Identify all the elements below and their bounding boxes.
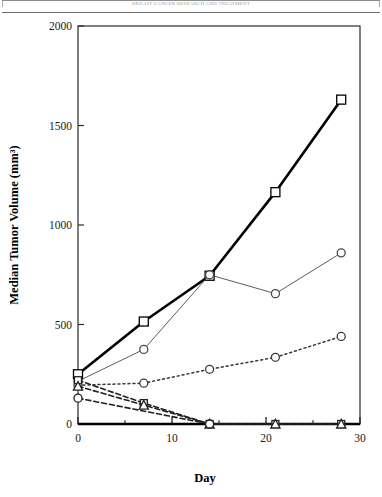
x-axis: 0102030	[75, 417, 366, 444]
y-tick-label: 0	[66, 418, 72, 430]
y-tick-label: 2000	[49, 20, 72, 32]
data-point-circle	[140, 345, 148, 353]
data-point-square	[139, 317, 148, 326]
data-point-circle	[206, 271, 214, 279]
y-axis-title: Median Tumor Volume (mm³)	[7, 145, 21, 304]
data-point-circle	[337, 332, 345, 340]
x-tick-label: 0	[75, 432, 81, 444]
y-axis: 0500100015002000	[49, 20, 84, 430]
data-point-square	[271, 188, 280, 197]
line-chart: 0500100015002000 0102030 Median Tumor Vo…	[0, 13, 382, 497]
y-tick-label: 500	[55, 319, 73, 331]
y-tick-label: 1500	[49, 120, 72, 132]
y-tick-label: 1000	[49, 219, 72, 231]
running-header: BREAST CANCER RESEARCH AND TREATMENT	[0, 0, 382, 13]
x-tick-label: 10	[166, 432, 178, 444]
plot-frame	[78, 26, 360, 424]
data-point-circle	[140, 379, 148, 387]
data-point-circle	[337, 249, 345, 257]
series-line	[78, 100, 341, 375]
running-header-text: BREAST CANCER RESEARCH AND TREATMENT	[0, 0, 382, 8]
data-point-circle	[206, 365, 214, 373]
data-point-square	[337, 95, 346, 104]
x-axis-title: Day	[194, 471, 216, 485]
data-point-circle	[74, 394, 82, 402]
data-point-circle	[271, 353, 279, 361]
x-tick-label: 30	[354, 432, 366, 444]
series-1	[74, 95, 346, 379]
series-line	[78, 380, 341, 424]
series-3	[74, 332, 345, 389]
data-series-layer	[73, 95, 345, 428]
figure-page: BREAST CANCER RESEARCH AND TREATMENT 050…	[0, 0, 382, 497]
plot-border	[78, 26, 360, 424]
chart-container: 0500100015002000 0102030 Median Tumor Vo…	[0, 13, 382, 497]
data-point-circle	[206, 420, 214, 428]
x-tick-label: 20	[260, 432, 272, 444]
data-point-circle	[271, 290, 279, 298]
